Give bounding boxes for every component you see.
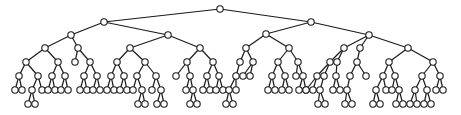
tree-leaf-node: [149, 87, 155, 93]
tree-leaf-node: [72, 59, 78, 65]
tree-node: [405, 45, 411, 51]
tree-node: [187, 73, 193, 79]
tree-node: [153, 73, 159, 79]
tree-leaf-node: [440, 87, 446, 93]
tree-node: [344, 87, 350, 93]
tree-node: [412, 87, 418, 93]
tree-leaf-node: [183, 87, 189, 93]
tree-node: [430, 59, 436, 65]
tree-leaf-node: [52, 87, 58, 93]
tree-node: [42, 45, 48, 51]
tree-node: [396, 87, 402, 93]
tree-leaf-node: [39, 87, 45, 93]
tree-leaf-node: [310, 87, 316, 93]
tree-leaf-node: [19, 87, 25, 93]
tree-node: [94, 73, 100, 79]
tree-leaf-node: [84, 87, 90, 93]
tree-leaf-node: [330, 87, 336, 93]
tree-node: [62, 73, 68, 79]
tree-leaf-node: [363, 73, 369, 79]
tree-leaf-node: [247, 73, 253, 79]
tree-leaf-node: [240, 73, 246, 79]
tree-node: [101, 19, 107, 25]
tree-edge: [266, 22, 311, 34]
tree-node: [321, 73, 327, 79]
tree-edge: [104, 9, 220, 22]
tree-leaf-node: [377, 101, 383, 107]
tree-leaf-node: [293, 73, 299, 79]
tree-leaf-node: [117, 87, 123, 93]
tree-leaf-node: [142, 101, 148, 107]
tree-node: [158, 87, 164, 93]
tree-node: [250, 59, 256, 65]
tree-node: [392, 73, 398, 79]
tree-nodes: [12, 6, 446, 107]
tree-edge: [71, 22, 104, 35]
tree-edge: [220, 9, 311, 22]
tree-leaf-node: [25, 101, 31, 107]
tree-leaf-node: [272, 87, 278, 93]
tree-edge: [408, 48, 433, 62]
tree-node: [87, 59, 93, 65]
tree-edge: [130, 35, 168, 48]
tree-leaf-node: [124, 87, 130, 93]
tree-node: [184, 59, 190, 65]
tree-edge: [311, 22, 369, 35]
tree-edge: [344, 35, 369, 48]
tree-node: [314, 73, 320, 79]
tree-node: [419, 73, 425, 79]
tree-leaf-node: [303, 87, 309, 93]
tree-canvas: [0, 0, 461, 115]
tree-node: [243, 45, 249, 51]
tree-node: [114, 59, 120, 65]
tree-leaf-node: [414, 101, 420, 107]
tree-edge: [45, 35, 71, 48]
tree-leaf-node: [407, 101, 413, 107]
tree-leaf-node: [213, 87, 219, 93]
tree-node: [347, 73, 353, 79]
tree-node: [16, 73, 22, 79]
tree-node: [165, 32, 171, 38]
tree-leaf-node: [65, 87, 71, 93]
tree-node: [334, 59, 340, 65]
tree-leaf-node: [349, 101, 355, 107]
tree-node: [75, 45, 81, 51]
tree-node: [216, 73, 222, 79]
tree-node: [35, 73, 41, 79]
tree-leaf-node: [223, 101, 229, 107]
tree-node: [437, 73, 443, 79]
tree-leaf-node: [400, 101, 406, 107]
tree-node: [275, 59, 281, 65]
tree-node: [333, 73, 339, 79]
tree-leaf-node: [265, 87, 271, 93]
tree-node: [55, 59, 61, 65]
tree-node: [269, 73, 275, 79]
tree-leaf-node: [370, 101, 376, 107]
tree-node: [354, 59, 360, 65]
tree-node: [217, 6, 223, 12]
tree-node: [380, 73, 386, 79]
tree-node: [127, 45, 133, 51]
tree-leaf-node: [337, 87, 343, 93]
tree-leaf-node: [161, 101, 167, 107]
tree-leaf-node: [90, 87, 96, 93]
tree-leaf-node: [286, 87, 292, 93]
tree-node: [29, 87, 35, 93]
binary-tree-diagram: [0, 0, 461, 115]
tree-node: [308, 19, 314, 25]
tree-node: [341, 45, 347, 51]
tree-leaf-node: [111, 87, 117, 93]
tree-node: [317, 87, 323, 93]
tree-node: [190, 87, 196, 93]
tree-leaf-node: [207, 87, 213, 93]
tree-node: [366, 32, 372, 38]
tree-node: [197, 45, 203, 51]
tree-leaf-node: [421, 101, 427, 107]
tree-leaf-node: [12, 87, 18, 93]
tree-node: [226, 87, 232, 93]
tree-leaf-node: [296, 87, 302, 93]
tree-leaf-node: [32, 101, 38, 107]
tree-leaf-node: [389, 87, 395, 93]
tree-leaf-node: [187, 101, 193, 107]
tree-leaf-node: [220, 87, 226, 93]
